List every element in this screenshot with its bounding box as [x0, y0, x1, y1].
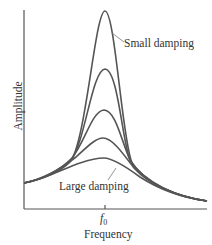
y-axis-label: Amplitude: [12, 66, 24, 146]
large-damping-annotation: Large damping: [59, 180, 129, 192]
f0-tick-sub: 0: [103, 218, 107, 227]
small-damping-annotation: Small damping: [124, 37, 194, 49]
f0-tick-label: f0: [100, 211, 107, 227]
x-axis-label: Frequency: [84, 228, 133, 240]
large-damping-leader: [108, 168, 116, 180]
